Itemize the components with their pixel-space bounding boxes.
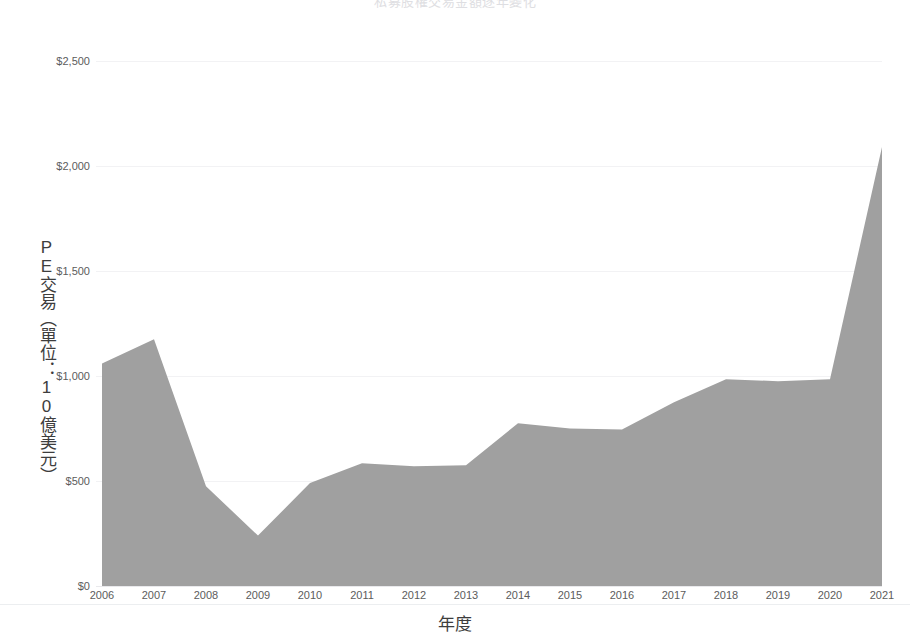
area-chart: 私募股權交易金額逐年變化 $2,500$2,000$1,500$1,000$50… xyxy=(0,0,910,634)
x-tick-label: 2017 xyxy=(648,589,700,601)
x-tick-label: 2014 xyxy=(492,589,544,601)
y-tick-labels: $2,500$2,000$1,500$1,000$500$0 xyxy=(22,0,90,634)
y-axis-title: PE交易（單位：10億美元） xyxy=(34,238,56,568)
x-axis-title: 年度 xyxy=(0,610,910,634)
x-tick-label: 2008 xyxy=(180,589,232,601)
x-tick-label: 2012 xyxy=(388,589,440,601)
x-tick-label: 2020 xyxy=(804,589,856,601)
x-tick-label: 2011 xyxy=(336,589,388,601)
x-tick-label: 2007 xyxy=(128,589,180,601)
x-tick-label: 2018 xyxy=(700,589,752,601)
x-tick-label: 2021 xyxy=(856,589,908,601)
x-tick-label: 2009 xyxy=(232,589,284,601)
x-tick-label: 2010 xyxy=(284,589,336,601)
x-tick-label: 2016 xyxy=(596,589,648,601)
x-tick-label: 2019 xyxy=(752,589,804,601)
y-tick-label: $2,000 xyxy=(28,161,90,172)
x-tick-label: 2013 xyxy=(440,589,492,601)
x-tick-label: 2015 xyxy=(544,589,596,601)
series-area-pe-deals xyxy=(0,0,910,634)
y-tick-label: $2,500 xyxy=(28,56,90,67)
footer-divider xyxy=(0,604,910,605)
x-tick-label: 2006 xyxy=(76,589,128,601)
